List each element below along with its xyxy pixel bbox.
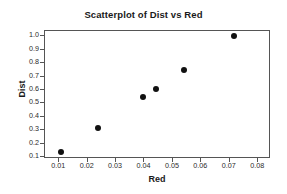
y-tick-label: 0.3 bbox=[0, 124, 44, 134]
y-tick-label: 0.9 bbox=[0, 44, 44, 54]
y-tick-label: 1.0 bbox=[0, 30, 44, 40]
data-point bbox=[153, 86, 159, 92]
plot-area bbox=[44, 30, 270, 158]
x-tick-mark bbox=[257, 158, 258, 162]
y-tick-label: 0.4 bbox=[0, 111, 44, 121]
x-tick-mark bbox=[143, 158, 144, 162]
data-point bbox=[58, 149, 64, 155]
y-tick-label: 0.8 bbox=[0, 57, 44, 67]
x-tick-mark bbox=[172, 158, 173, 162]
data-point-layer bbox=[45, 31, 269, 157]
data-point bbox=[140, 94, 146, 100]
x-tick-label: 0.08 bbox=[240, 161, 274, 170]
scatterplot-figure: Scatterplot of Dist vs Red Dist 0.10.20.… bbox=[0, 0, 287, 194]
x-tick-mark bbox=[200, 158, 201, 162]
y-tick-label: 0.1 bbox=[0, 151, 44, 161]
x-tick-mark bbox=[58, 158, 59, 162]
chart-title: Scatterplot of Dist vs Red bbox=[0, 9, 287, 20]
x-axis-label: Red bbox=[44, 174, 270, 184]
data-point bbox=[181, 67, 187, 73]
x-tick-mark bbox=[87, 158, 88, 162]
data-point bbox=[95, 125, 101, 131]
x-tick-mark bbox=[229, 158, 230, 162]
y-tick-label: 0.2 bbox=[0, 138, 44, 148]
data-point bbox=[231, 33, 237, 39]
x-tick-mark bbox=[115, 158, 116, 162]
y-tick-label: 0.7 bbox=[0, 71, 44, 81]
y-tick-label: 0.6 bbox=[0, 84, 44, 94]
y-tick-label: 0.5 bbox=[0, 97, 44, 107]
